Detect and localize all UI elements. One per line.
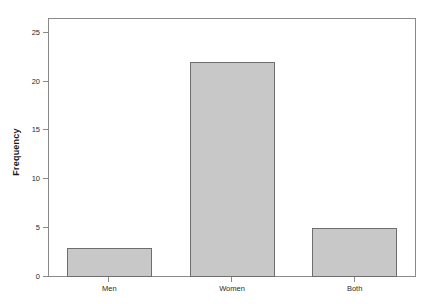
bar [312, 228, 397, 277]
y-tick-label: 15 [32, 124, 40, 135]
x-tick-mark [231, 277, 232, 282]
y-tick-label: 5 [36, 222, 40, 233]
bar [190, 62, 275, 277]
x-tick-mark [354, 277, 355, 282]
y-axis-title-label: Frequency [11, 128, 21, 175]
bars-layer [48, 18, 416, 277]
y-tick-label: 20 [32, 76, 40, 87]
bar [67, 248, 152, 277]
x-tick-mark [108, 277, 109, 282]
x-tick-label: Men [69, 284, 149, 293]
bar-chart: Frequency 0510152025 MenWomenBoth [0, 0, 433, 304]
y-tick-label: 10 [32, 173, 40, 184]
x-tick-label: Women [192, 284, 272, 293]
y-tick-label: 0 [36, 271, 40, 282]
y-tick-label: 25 [32, 27, 40, 38]
x-tick-label: Both [315, 284, 395, 293]
y-axis-title: Frequency [6, 0, 26, 304]
